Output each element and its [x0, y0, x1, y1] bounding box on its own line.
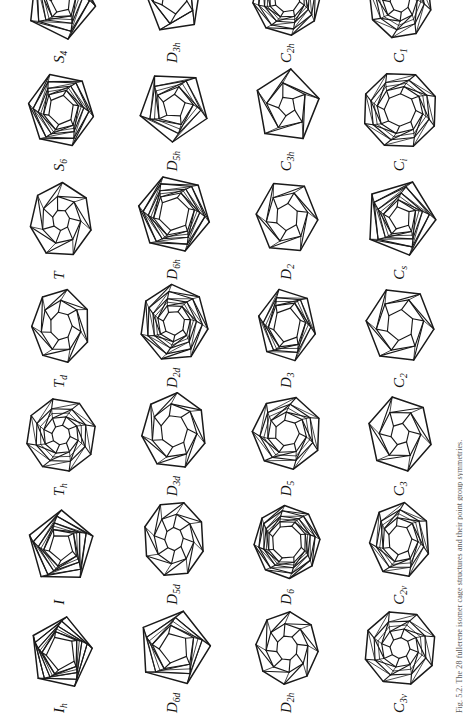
cage-D3d-label-sub: 3d [172, 476, 182, 486]
cage-Ih-label-sub: h [59, 703, 69, 708]
cage-C3v: C3v [344, 605, 457, 713]
cage-C2h-label: C2h [279, 43, 296, 63]
cage-C3-label-sub: 3 [399, 482, 409, 487]
cage-D2: D2 [231, 171, 344, 279]
cage-C3v-drawing [344, 605, 457, 692]
cage-C3h-label: C3h [279, 152, 296, 172]
cage-S4-label: S4 [52, 51, 69, 63]
cage-grid: IhIThTdTS6S4D6dD5dD3dD2dD6hD5hD3hD2hD6D5… [0, 0, 463, 719]
cage-D6-label-sub: 6 [286, 589, 296, 594]
cage-D3h: D3h [117, 0, 230, 63]
cage-D2h-label-main: D [278, 702, 294, 713]
cage-Td-label: Td [52, 375, 69, 388]
cage-C1-label-main: C [391, 53, 407, 63]
cage-T-label-main: T [51, 271, 67, 279]
cage-D3d-label-main: D [164, 485, 180, 496]
cage-C3v-label: C3v [392, 694, 409, 713]
cage-D6: D6 [231, 496, 344, 604]
cage-D5h-label-main: D [164, 160, 180, 171]
cage-D2h-label: D2h [279, 693, 296, 713]
cage-C3h: C3h [231, 63, 344, 171]
cage-T: T [4, 171, 117, 279]
cage-S6-label-main: S [51, 164, 67, 172]
cage-C3v-label-main: C [391, 703, 407, 713]
cage-C1-label-sub: 1 [399, 48, 409, 53]
cage-C2h-drawing [231, 0, 344, 41]
figure-page: IhIThTdTS6S4D6dD5dD3dD2dD6hD5hD3hD2hD6D5… [0, 0, 463, 719]
cage-Th-label: Th [52, 483, 69, 496]
cage-D5d-label-main: D [164, 594, 180, 605]
cage-D2h-label-sub: 2h [286, 693, 296, 703]
cage-C1-label: C1 [392, 48, 409, 63]
cage-D3-label-sub: 3 [286, 372, 296, 377]
cage-D6h-label: D6h [165, 259, 182, 279]
cage-D6d-label-sub: 6d [172, 693, 182, 703]
cage-D3d-drawing [117, 388, 230, 474]
cage-D2d-drawing [117, 280, 230, 366]
cage-Cs-drawing [344, 171, 457, 264]
cage-Td-drawing [4, 280, 117, 373]
cage-C3h-label-main: C [278, 161, 294, 171]
cage-Cs: Cs [344, 171, 457, 279]
cage-C3v-label-sub: 3v [399, 694, 409, 703]
cage-Ih-label: Ih [52, 703, 69, 713]
cage-D6-label-main: D [278, 594, 294, 605]
cage-T-drawing [4, 171, 117, 269]
cage-Ci: Ci [344, 63, 457, 171]
cage-I-drawing [4, 496, 117, 597]
cage-S4: S4 [4, 0, 117, 63]
cage-S4-label-sub: 4 [59, 51, 69, 56]
cage-D2-label: D2 [279, 264, 296, 280]
cage-S4-label-main: S [51, 55, 67, 63]
cage-C2v-drawing [344, 496, 457, 583]
cage-Ih-drawing [4, 605, 117, 702]
cage-D3-label-main: D [278, 377, 294, 388]
cage-D3: D3 [231, 280, 344, 388]
cage-C3: C3 [344, 388, 457, 496]
cage-D6h-label-main: D [164, 269, 180, 280]
cage-Ih-label-main: I [51, 708, 67, 713]
cage-D6-label: D6 [279, 589, 296, 605]
cage-Ci-label-sub: i [399, 159, 409, 162]
cage-D5-label-main: D [278, 485, 294, 496]
cage-C2: C2 [344, 280, 457, 388]
cage-C1-drawing [344, 0, 457, 46]
cage-Cs-label-main: C [391, 270, 407, 280]
cage-D3h-label-sub: 3h [172, 43, 182, 53]
cage-C2h: C2h [231, 0, 344, 63]
cage-Th-drawing [4, 388, 117, 481]
cage-D5h-label-sub: 5h [172, 151, 182, 161]
cage-Ci-drawing [344, 63, 457, 157]
cage-C2-label-main: C [391, 378, 407, 388]
cage-Ih: Ih [4, 605, 117, 713]
cage-D2d-label-main: D [164, 377, 180, 388]
cage-D6h: D6h [117, 171, 230, 279]
cage-D3-drawing [231, 280, 344, 371]
cage-S6: S6 [4, 63, 117, 171]
cage-D6d-drawing [117, 605, 230, 691]
cage-D5d-drawing [117, 496, 230, 582]
cage-Td-label-sub: d [59, 375, 69, 380]
cage-D5d: D5d [117, 496, 230, 604]
cage-D6d-label: D6d [165, 693, 182, 713]
cage-D5-label-sub: 5 [286, 481, 296, 486]
cage-I-label-main: I [51, 600, 67, 605]
cage-Td-label-main: T [51, 380, 67, 388]
cage-I: I [4, 496, 117, 604]
cage-D5h-label: D5h [165, 151, 182, 171]
cage-S4-drawing [4, 0, 117, 49]
cage-C2-label-sub: 2 [399, 373, 409, 378]
cage-S6-label: S6 [52, 159, 69, 171]
cage-D3-label: D3 [279, 372, 296, 388]
cage-C2v-label-main: C [391, 595, 407, 605]
cage-C2h-label-main: C [278, 53, 294, 63]
cage-D3h-label-main: D [164, 52, 180, 63]
cage-D6d-label-main: D [164, 702, 180, 713]
cage-D3h-label: D3h [165, 43, 182, 63]
cage-D2-label-sub: 2 [286, 264, 296, 269]
cage-Cs-label: Cs [392, 266, 409, 280]
cage-C3-label: C3 [392, 482, 409, 497]
cage-D5d-label-sub: 5d [172, 584, 182, 594]
cage-Ci-label: Ci [392, 159, 409, 172]
figure-sheet: IhIThTdTS6S4D6dD5dD3dD2dD6hD5hD3hD2hD6D5… [0, 0, 463, 719]
